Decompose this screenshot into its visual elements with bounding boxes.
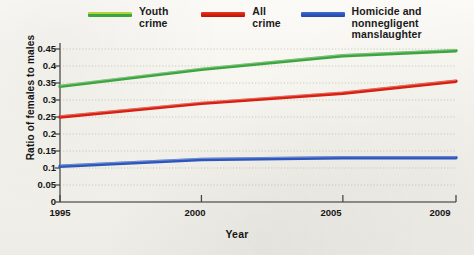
line-chart-figure: Youth crime All crime Homicide and nonne… [0, 0, 474, 255]
series-highlight-all-crime [60, 80, 456, 116]
plot-area [0, 0, 474, 255]
series-line-youth-crime [60, 51, 456, 87]
